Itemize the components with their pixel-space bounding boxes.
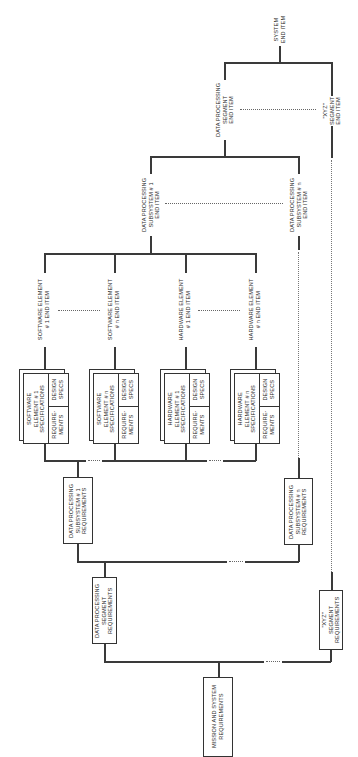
system-end-item-label: SYSTEMEND ITEM <box>262 14 298 46</box>
ellipsis <box>88 460 100 461</box>
mission-system-requirements-box: MISSION AND SYSTEMREQUIREMENTS <box>203 677 233 757</box>
dp-subsystem-1-end-item-label: DATA PROCESSINGSUBSYSTEM # 1END ITEM <box>132 174 170 236</box>
connector <box>44 253 256 255</box>
dotted-connector <box>240 109 316 110</box>
ellipsis <box>229 561 243 562</box>
connector <box>331 126 333 158</box>
sw-element-1-end-item-label: SOFTWARE ELEMENT# 1 END ITEM <box>28 273 60 347</box>
connector <box>150 156 152 174</box>
connector <box>298 545 300 562</box>
ellipsis-gap <box>207 458 223 464</box>
connector <box>44 460 256 462</box>
connector <box>77 561 299 563</box>
sw-element-n-spec-box: SOFTWAREELEMENT # nSPECIFICATIONS DESIGN… <box>93 373 139 444</box>
dp-subsystem-1-requirements-box: DATA PROCESSINGSUBSYSTEM # 1REQUIREMENTS <box>63 477 93 544</box>
connector <box>298 458 300 478</box>
connector <box>331 62 333 96</box>
ellipsis-gap <box>86 458 102 464</box>
hw-element-n-spec-box: HARDWAREELEMENT # nSPECIFICATIONS DESIGN… <box>234 373 280 444</box>
dp-subsystem-n-end-item-label: DATA PROCESSINGSUBSYSTEM # nEND ITEM <box>280 174 318 236</box>
connector <box>255 253 257 273</box>
connector <box>114 444 116 461</box>
connector <box>114 253 116 273</box>
xyz-segment-end-item-label: "XYZ"SEGMENTEND ITEM <box>313 96 351 126</box>
connector <box>331 572 333 590</box>
connector <box>224 140 226 157</box>
connector <box>44 253 46 273</box>
connector <box>298 236 300 250</box>
connector <box>218 661 220 678</box>
connector <box>150 236 152 254</box>
connector <box>185 347 187 370</box>
hw-element-1-spec-box: HARDWAREELEMENT # 1SPECIFICATIONS DESIGN… <box>164 373 210 444</box>
dp-segment-requirements-box: DATA PROCESSINGSEGMENTREQUIREMENTS <box>92 577 117 644</box>
ellipsis <box>209 460 221 461</box>
connector <box>185 253 187 273</box>
connector <box>255 444 257 461</box>
connector <box>224 62 332 64</box>
hw-element-1-end-item-label: HARDWARE ELEMENT# 1 END ITEM <box>169 273 201 347</box>
connector <box>104 644 106 662</box>
connector <box>77 544 79 562</box>
ellipsis <box>266 661 280 662</box>
connector <box>224 62 226 80</box>
connector <box>114 347 116 370</box>
dotted-connector <box>165 203 283 204</box>
connector <box>150 156 299 158</box>
dotted-connector <box>298 252 299 458</box>
hw-element-n-end-item-label: HARDWARE ELEMENT# n END ITEM <box>239 273 271 347</box>
ellipsis-gap <box>227 559 245 565</box>
connector <box>44 347 46 370</box>
dotted-connector <box>331 160 332 572</box>
connector <box>104 561 106 578</box>
connector <box>255 347 257 370</box>
connector <box>185 444 187 461</box>
xyz-segment-requirements-box: "XYZ"SEGMENTREQUIREMENTS <box>319 590 343 650</box>
connector <box>298 156 300 174</box>
dp-segment-end-item-label: DATA PROCESSINGSEGMENTEND ITEM <box>206 80 244 140</box>
connector <box>77 460 79 478</box>
sw-element-n-end-item-label: SOFTWARE ELEMENT# n END ITEM <box>98 273 130 347</box>
dp-subsystem-n-requirements-box: DATA PROCESSINGSUBSYSTEM # nREQUIREMENTS <box>284 478 313 545</box>
dotted-connector <box>198 310 240 311</box>
dotted-connector <box>58 310 100 311</box>
sw-element-1-spec-box: SOFTWAREELEMENT # 1SPECIFICATIONS DESIGN… <box>23 373 69 444</box>
connector <box>279 46 281 63</box>
connector <box>44 444 46 461</box>
ellipsis-gap <box>264 659 282 665</box>
